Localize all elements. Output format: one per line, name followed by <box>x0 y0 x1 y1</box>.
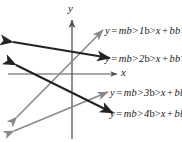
y-axis-label: y <box>68 3 73 14</box>
line-1-equation-label: y=mb>1b>x+bb>1b> <box>105 26 182 37</box>
line-4-equation-label: y=mb>4b>x+bb>4b> <box>110 109 182 120</box>
line-2-equation-label: y=mb>2b>x+bb>2b> <box>105 54 182 65</box>
data-lines-group <box>13 30 113 131</box>
x-axis-label: x <box>121 67 126 78</box>
coordinate-plane-svg <box>0 0 182 142</box>
graph-figure: y x y=mb>1b>x+bb>1b> y=mb>2b>x+bb>2b> y=… <box>0 0 182 142</box>
line-3-segment <box>14 92 108 131</box>
line-2-segment <box>13 42 110 58</box>
axis-group <box>8 20 117 139</box>
line-4-segment <box>16 65 113 113</box>
line-3-equation-label: y=mb>3b>x+bb>3b> <box>110 88 182 99</box>
